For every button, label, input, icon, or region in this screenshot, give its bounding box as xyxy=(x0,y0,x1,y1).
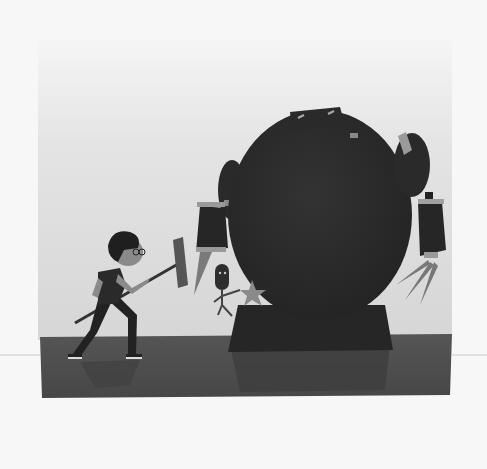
illustration xyxy=(0,0,487,469)
